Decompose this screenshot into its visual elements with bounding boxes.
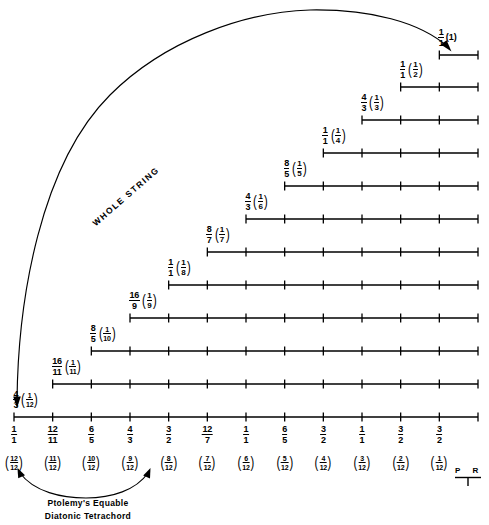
string-rows-group xyxy=(14,51,478,422)
axis-ratio-label-11: 32 xyxy=(398,425,404,445)
row-label-12: 43(112) xyxy=(13,390,39,410)
axis-fraction-label-4: (912) xyxy=(121,453,140,471)
row-label-7: 87(17) xyxy=(206,225,230,245)
row-label-6: 43(16) xyxy=(245,192,269,212)
row-label-3: 43(13) xyxy=(361,93,385,113)
ptolemy-bracket-arc xyxy=(18,468,151,498)
axis-fraction-label-12: (112) xyxy=(430,453,449,471)
axis-fraction-label-2: (1112) xyxy=(43,453,62,471)
axis-fraction-label-1: (1212) xyxy=(4,453,24,471)
row-label-8: 11(18) xyxy=(168,258,192,278)
axis-ratio-label-10: 11 xyxy=(359,425,365,445)
caption-line-1: Ptolemy's Equable xyxy=(47,498,128,508)
axis-fraction-label-10: (312) xyxy=(353,453,372,471)
harmonic-division-figure: 11(1)11(12)43(13)11(14)85(15)43(16)87(17… xyxy=(0,0,489,525)
row-label-2: 11(12) xyxy=(400,60,424,80)
axis-ratio-label-8: 65 xyxy=(282,425,288,445)
axis-ratio-label-12: 32 xyxy=(436,425,442,445)
axis-fraction-label-3: (1012) xyxy=(81,453,101,471)
row-label-9: 169(19) xyxy=(129,291,158,311)
axis-ratio-label-2: 1211 xyxy=(47,425,58,445)
axis-fraction-label-5: (812) xyxy=(159,453,178,471)
row-label-4: 11(14) xyxy=(322,126,346,146)
axis-ratio-label-7: 11 xyxy=(243,425,249,445)
axis-fraction-label-7: (612) xyxy=(237,453,256,471)
ptolemy-caption: Ptolemy's Equable Diatonic Tetrachord xyxy=(8,497,168,523)
row-label-5: 85(15) xyxy=(284,159,308,179)
axis-fraction-label-11: (212) xyxy=(391,453,410,471)
axis-ratio-label-5: 32 xyxy=(166,425,172,445)
axis-ratio-label-6: 127 xyxy=(202,425,213,445)
axis-fraction-label-9: (412) xyxy=(314,453,333,471)
row-label-11: 1611(111) xyxy=(52,357,82,377)
axis-ratio-label-1: 11 xyxy=(11,425,17,445)
axis-ratio-label-9: 32 xyxy=(320,425,326,445)
pr-label: P R xyxy=(455,466,483,475)
axis-ratio-label-4: 43 xyxy=(127,425,133,445)
whole-string-arc xyxy=(13,10,451,408)
axis-ratio-label-3: 65 xyxy=(88,425,94,445)
row-label-10: 85(110) xyxy=(90,324,116,344)
pr-bridge-mark xyxy=(455,478,481,487)
axis-fraction-label-8: (512) xyxy=(275,453,294,471)
row-label-1: 11(1) xyxy=(438,28,456,48)
caption-line-2: Diatonic Tetrachord xyxy=(45,511,131,521)
axis-fraction-label-6: (712) xyxy=(198,453,217,471)
